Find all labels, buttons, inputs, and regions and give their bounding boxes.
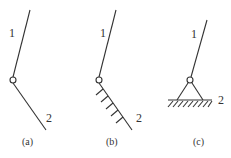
pin-joint-icon-b bbox=[96, 77, 102, 83]
caption-c: (c) bbox=[193, 136, 204, 148]
pin-joint-icon-c bbox=[187, 77, 193, 83]
label-2-a: 2 bbox=[46, 111, 52, 125]
support-right-c bbox=[192, 83, 203, 100]
panel-a: 1 2 (a) bbox=[9, 10, 52, 148]
label-2-c: 2 bbox=[218, 93, 224, 107]
caption-b: (b) bbox=[106, 136, 118, 148]
support-left-c bbox=[177, 83, 188, 100]
panel-b: 1 2 (b) bbox=[96, 10, 142, 148]
label-1-a: 1 bbox=[9, 26, 15, 40]
label-1-b: 1 bbox=[100, 26, 106, 40]
label-2-b: 2 bbox=[136, 111, 142, 125]
ground-hatch-icon-c bbox=[168, 101, 212, 107]
diagram-canvas: 1 2 (a) 1 2 (b) bbox=[0, 0, 231, 158]
caption-a: (a) bbox=[22, 136, 33, 148]
link-1-b bbox=[99, 10, 116, 77]
hatch-icon-b bbox=[96, 89, 123, 123]
panel-c: 1 2 (c) bbox=[168, 20, 224, 148]
link-2-a bbox=[13, 83, 46, 130]
pin-joint-icon-a bbox=[10, 77, 16, 83]
label-1-c: 1 bbox=[191, 27, 197, 41]
frame-2-b bbox=[99, 83, 132, 130]
link-1-a bbox=[13, 10, 30, 77]
